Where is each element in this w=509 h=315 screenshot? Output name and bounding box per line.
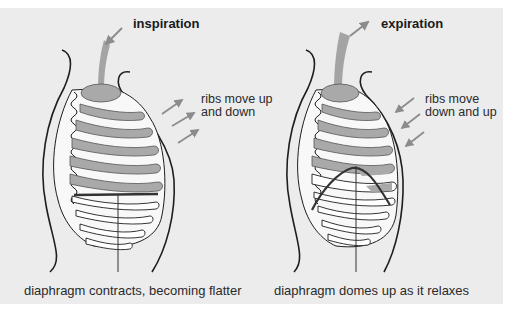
- inspiration-ribs-note-line2: and down: [201, 105, 255, 119]
- inspiration-title: inspiration: [133, 17, 199, 31]
- rib-arrow-4-icon: [396, 98, 414, 112]
- diaphragm-flat: [74, 194, 158, 195]
- inspiration-figure: [43, 28, 198, 272]
- diagram-panel: inspiration ribs move up and down diaphr…: [0, 8, 503, 304]
- inspiration-ribs-note-line1: ribs move up: [201, 92, 273, 106]
- air-out-arrow-icon: [350, 22, 368, 36]
- rib-arrow-6-icon: [406, 132, 424, 146]
- expiration-caption: diaphragm domes up as it relaxes: [274, 284, 469, 298]
- lung-apex-right: [321, 84, 359, 102]
- breathing-illustration: [0, 8, 503, 304]
- air-in-arrow-icon: [106, 28, 122, 44]
- expiration-ribs-note-line2: down and up: [425, 105, 497, 119]
- lung-apex-left: [81, 84, 121, 102]
- expiration-figure: [287, 22, 424, 272]
- trachea-right: [334, 32, 350, 90]
- inspiration-caption: diaphragm contracts, becoming flatter: [24, 284, 242, 298]
- rib-arrow-1-icon: [162, 100, 182, 114]
- rib-arrow-3-icon: [178, 130, 198, 143]
- trachea-left: [98, 40, 110, 90]
- rib-arrow-5-icon: [402, 114, 420, 128]
- expiration-ribs-note-line1: ribs move: [425, 92, 479, 106]
- rib-arrow-2-icon: [172, 113, 194, 126]
- expiration-title: expiration: [381, 17, 443, 31]
